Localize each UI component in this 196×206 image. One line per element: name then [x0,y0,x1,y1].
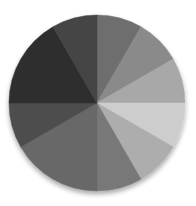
pie-chart [0,0,196,206]
pie-chart-canvas [0,0,196,206]
pie-slices [9,15,185,191]
